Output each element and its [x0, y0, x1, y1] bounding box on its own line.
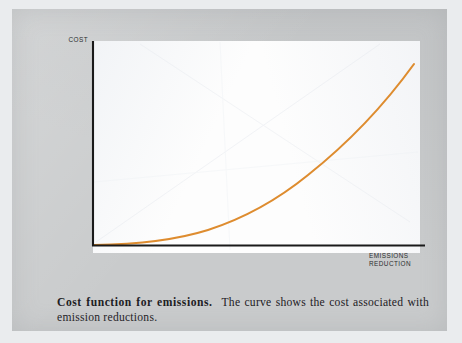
x-axis-title: EMISSIONS REDUCTION	[369, 252, 439, 269]
cost-curve	[94, 64, 414, 245]
scan-artifacts	[94, 42, 418, 250]
figure-caption: Cost function for emissions.The curve sh…	[57, 295, 429, 326]
y-axis-title: COST	[64, 36, 88, 44]
chart-area	[80, 32, 428, 264]
figure-root: COST EMISSIONS REDUCTION Cost function f…	[0, 0, 462, 343]
chart-svg	[80, 32, 428, 264]
page-card: COST EMISSIONS REDUCTION Cost function f…	[12, 9, 447, 331]
caption-lead: Cost function for emissions.	[57, 296, 213, 309]
